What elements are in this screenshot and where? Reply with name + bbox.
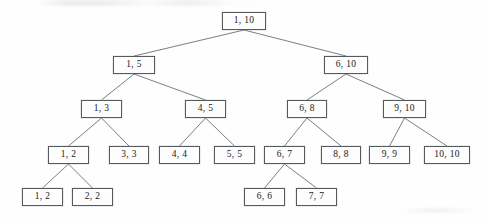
tree-node-1-10: 1, 10 bbox=[222, 12, 266, 30]
tree-node-label: 10, 10 bbox=[434, 150, 460, 160]
tree-node-4-4: 4, 4 bbox=[159, 146, 200, 164]
tree-node-label: 6, 10 bbox=[336, 60, 357, 70]
tree-edge bbox=[69, 164, 93, 188]
tree-edge bbox=[307, 118, 341, 146]
tree-node-10-10: 10, 10 bbox=[424, 146, 470, 164]
tree-node-6-10: 6, 10 bbox=[324, 56, 368, 74]
tree-node-6-8: 6, 8 bbox=[287, 100, 327, 118]
tree-edge bbox=[244, 30, 346, 56]
tree-node-label: 4, 4 bbox=[172, 150, 187, 160]
tree-edge bbox=[285, 164, 317, 188]
tree-edge bbox=[285, 118, 308, 146]
tree-edge bbox=[102, 74, 135, 100]
tree-edge bbox=[69, 118, 102, 146]
tree-diagram-canvas: 1, 101, 56, 101, 34, 56, 89, 101, 23, 34… bbox=[0, 0, 484, 219]
tree-node-label: 9, 9 bbox=[382, 150, 397, 160]
tree-edge bbox=[43, 164, 69, 188]
tree-node-1-5: 1, 5 bbox=[113, 56, 155, 74]
tree-edge bbox=[102, 118, 130, 146]
tree-edge bbox=[134, 74, 206, 100]
tree-node-label: 8, 8 bbox=[333, 150, 348, 160]
tree-node-4-5: 4, 5 bbox=[185, 100, 226, 118]
tree-node-1-2: 1, 2 bbox=[22, 188, 63, 206]
tree-node-label: 6, 7 bbox=[277, 150, 292, 160]
tree-node-label: 5, 5 bbox=[227, 150, 242, 160]
tree-node-label: 6, 8 bbox=[299, 104, 314, 114]
tree-node-7-7: 7, 7 bbox=[296, 188, 337, 206]
tree-node-label: 6, 6 bbox=[257, 192, 272, 202]
tree-node-9-10: 9, 10 bbox=[383, 100, 426, 118]
tree-node-label: 1, 5 bbox=[126, 60, 141, 70]
tree-node-6-7: 6, 7 bbox=[264, 146, 305, 164]
tree-node-label: 9, 10 bbox=[394, 104, 415, 114]
tree-edge bbox=[307, 74, 346, 100]
tree-edge bbox=[390, 118, 405, 146]
tree-edge bbox=[180, 118, 206, 146]
tree-node-1-2: 1, 2 bbox=[48, 146, 89, 164]
tree-edge bbox=[405, 118, 448, 146]
tree-node-9-9: 9, 9 bbox=[369, 146, 410, 164]
tree-node-1-3: 1, 3 bbox=[81, 100, 122, 118]
tree-edge bbox=[206, 118, 235, 146]
tree-node-label: 1, 2 bbox=[35, 192, 50, 202]
tree-node-label: 1, 3 bbox=[94, 104, 109, 114]
tree-node-label: 1, 10 bbox=[234, 16, 255, 26]
tree-node-2-2: 2, 2 bbox=[72, 188, 113, 206]
tree-node-3-3: 3, 3 bbox=[109, 146, 149, 164]
tree-edge bbox=[265, 164, 285, 188]
tree-edge bbox=[134, 30, 244, 56]
tree-node-label: 4, 5 bbox=[198, 104, 213, 114]
tree-node-5-5: 5, 5 bbox=[214, 146, 255, 164]
tree-edge bbox=[346, 74, 405, 100]
tree-node-6-6: 6, 6 bbox=[244, 188, 285, 206]
tree-node-label: 3, 3 bbox=[121, 150, 136, 160]
tree-node-label: 2, 2 bbox=[85, 192, 100, 202]
tree-node-label: 7, 7 bbox=[309, 192, 324, 202]
tree-node-label: 1, 2 bbox=[61, 150, 76, 160]
tree-node-8-8: 8, 8 bbox=[321, 146, 361, 164]
